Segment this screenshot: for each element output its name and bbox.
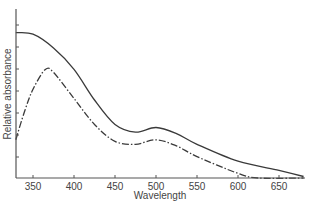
x-tick-label: 400 [66,181,83,192]
absorbance-chart: 350400450500550600650 Wavelength Relativ… [0,0,311,210]
x-tick-label: 350 [25,181,42,192]
x-tick-label: 600 [230,181,247,192]
x-axis-title: Wavelength [134,190,186,201]
axes: 350400450500550600650 [16,9,305,192]
x-tick-label: 650 [271,181,288,192]
plot-area [16,33,304,179]
dash-dot-curve [16,68,304,179]
x-tick-label: 450 [107,181,124,192]
solid-curve [16,33,304,177]
y-axis-title: Relative absorbance [2,48,13,140]
x-tick-label: 550 [189,181,206,192]
